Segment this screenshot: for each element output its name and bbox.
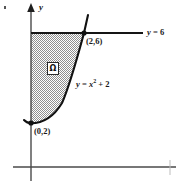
y-axis-arrowhead (27, 3, 35, 12)
point-marker-0-2 (28, 120, 33, 125)
point-label-0-2: (0,2) (34, 127, 50, 136)
curve-equation-label: y = x2 + 2 (76, 80, 109, 89)
point-label-2-6: (2,6) (86, 37, 102, 46)
line-equation-label: y = 6 (147, 28, 164, 37)
y-axis-label: y (39, 3, 43, 12)
line-equation-operator: = (151, 27, 160, 37)
curve-equation-tail: + 2 (96, 79, 109, 89)
region-label-omega: Ω (47, 62, 59, 75)
point-marker-2-6 (81, 30, 86, 35)
figure-canvas: y y = 6 (2,6) (0,2) y = x2 + 2 Ω (0, 0, 176, 185)
line-equation-rhs: 6 (160, 27, 164, 37)
curve-equation-operator: = (80, 79, 89, 89)
